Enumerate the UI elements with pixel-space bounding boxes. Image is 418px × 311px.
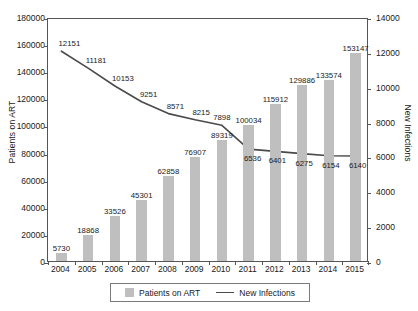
line-value-label: 6154 (316, 162, 346, 170)
y-axis-left-tick-label: 100000 (17, 122, 45, 131)
line-value-label: 6275 (289, 160, 319, 168)
bar-patients-on-art (136, 200, 147, 261)
legend-label-patients-on-art: Patients on ART (139, 288, 200, 298)
y-axis-left-tickmark (44, 19, 48, 20)
y-axis-right-tick-label: 6000 (376, 153, 395, 162)
y-axis-right-tick-label: 10000 (376, 84, 400, 93)
x-axis-labels: 2004200520062007200820092010201120122013… (47, 265, 368, 279)
y-axis-right-tickmark (367, 228, 371, 229)
bar-value-label: 89319 (200, 132, 244, 140)
bar-patients-on-art (217, 140, 228, 261)
y-axis-right-tick-label: 8000 (376, 119, 395, 128)
y-axis-left-ticks: 0200004000060000800001000001200001400001… (8, 0, 48, 311)
y-axis-right-tickmark (367, 193, 371, 194)
bar-patients-on-art (297, 85, 308, 261)
bar-patients-on-art (56, 253, 67, 261)
y-axis-right-ticks: 02000400060008000100001200014000 (374, 0, 414, 311)
y-axis-right-tickmark (367, 124, 371, 125)
bar-value-label: 76907 (173, 149, 217, 157)
line-value-label: 10153 (108, 75, 138, 83)
bar-patients-on-art (190, 157, 201, 261)
bar-patients-on-art (350, 53, 361, 261)
line-value-label: 11181 (81, 57, 111, 65)
y-axis-right-tick-label: 4000 (376, 188, 395, 197)
y-axis-right-tickmark (367, 54, 371, 55)
y-axis-left-tickmark (44, 209, 48, 210)
bar-patients-on-art (83, 235, 94, 261)
y-axis-left-tickmark (44, 127, 48, 128)
y-axis-left-tickmark (44, 100, 48, 101)
y-axis-left-tickmark (44, 236, 48, 237)
y-axis-left-tick-label: 160000 (17, 41, 45, 50)
line-value-label: 6401 (262, 157, 292, 165)
y-axis-left-tickmark (44, 155, 48, 156)
y-axis-right-tick-label: 0 (376, 258, 381, 267)
chart-legend: Patients on ART New Infections (110, 283, 310, 302)
y-axis-left-tickmark (44, 46, 48, 47)
bar-value-label: 153147 (334, 45, 378, 53)
legend-item-new-infections: New Infections (216, 288, 295, 298)
y-axis-left-tick-label: 40000 (21, 204, 45, 213)
y-axis-right-tick-label: 2000 (376, 223, 395, 232)
bar-value-label: 5730 (39, 245, 83, 253)
bar-patients-on-art (324, 80, 335, 261)
legend-label-new-infections: New Infections (239, 288, 295, 298)
x-axis-tick-label: 2015 (339, 265, 371, 274)
line-value-label: 6140 (343, 162, 373, 170)
y-axis-right-tickmark (367, 19, 371, 20)
y-axis-right-tickmark (367, 158, 371, 159)
y-axis-right-tick-label: 12000 (376, 49, 400, 58)
y-axis-right-tickmark (367, 89, 371, 90)
y-axis-left-tickmark (44, 73, 48, 74)
y-axis-right-tick-label: 14000 (376, 14, 400, 23)
bar-value-label: 133574 (307, 72, 351, 80)
line-value-label: 12151 (54, 40, 84, 48)
y-axis-left-tick-label: 60000 (21, 177, 45, 186)
y-axis-left-tick-label: 80000 (21, 150, 45, 159)
y-axis-left-tickmark (44, 182, 48, 183)
line-value-label: 7898 (207, 114, 237, 122)
bar-patients-on-art (163, 176, 174, 261)
bar-patients-on-art (243, 125, 254, 261)
line-value-label: 9251 (134, 91, 164, 99)
y-axis-left-tick-label: 120000 (17, 95, 45, 104)
bar-value-label: 115912 (253, 96, 297, 104)
y-axis-left-tick-label: 140000 (17, 68, 45, 77)
plot-inner: 5730188683352645301628587690789319100034… (48, 19, 367, 261)
bar-patients-on-art (270, 104, 281, 261)
legend-line-swatch-icon (216, 292, 234, 293)
bar-value-label: 45301 (120, 192, 164, 200)
chart-container: Patients on ART New Infections 020000400… (0, 0, 418, 311)
plot-area: 5730188683352645301628587690789319100034… (47, 18, 368, 262)
bar-value-label: 62858 (146, 168, 190, 176)
y-axis-left-tick-label: 20000 (21, 231, 45, 240)
bar-value-label: 18868 (66, 227, 110, 235)
legend-item-patients-on-art: Patients on ART (125, 288, 200, 298)
bar-value-label: 33526 (93, 208, 137, 216)
legend-bar-swatch-icon (125, 288, 134, 297)
y-axis-left-tick-label: 180000 (17, 14, 45, 23)
bar-patients-on-art (110, 216, 121, 261)
